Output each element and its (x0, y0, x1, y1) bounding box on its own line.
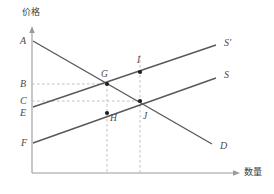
curve-label-supply-shifted: S' (224, 38, 231, 48)
curve-label-demand: D (220, 141, 227, 151)
y-tick-e: E (20, 108, 26, 118)
y-tick-b: B (20, 79, 26, 89)
curve-demand (33, 41, 212, 144)
y-tick-f: F (21, 138, 27, 148)
curve-label-supply: S (224, 70, 229, 80)
supply-demand-diagram: 价格 数量 A B C E F S' S D G H I J (0, 0, 274, 194)
dashed-guides-group (32, 55, 140, 173)
marker-h (105, 111, 109, 115)
curve-supply (33, 78, 216, 143)
point-label-i: I (137, 56, 140, 66)
point-label-j: J (143, 112, 147, 122)
y-axis-label: 价格 (22, 8, 40, 17)
diagram-canvas (0, 0, 274, 194)
y-tick-a: A (20, 36, 26, 46)
axes-group (29, 26, 240, 176)
point-label-g: G (101, 70, 108, 80)
marker-j (138, 99, 142, 103)
y-tick-c: C (20, 96, 27, 106)
x-axis-label: 数量 (244, 168, 262, 177)
point-label-h: H (110, 114, 117, 124)
marker-i (138, 70, 142, 74)
marker-g (105, 82, 109, 86)
curve-supply-shifted (33, 45, 216, 107)
